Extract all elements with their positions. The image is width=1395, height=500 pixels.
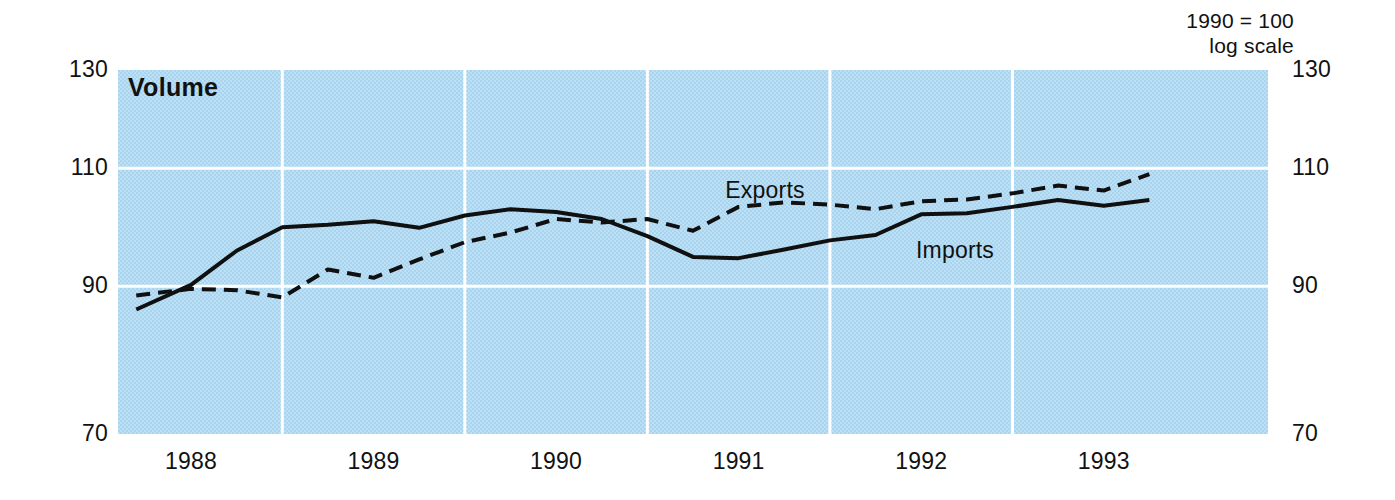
y-tick-label-left: 90 [38, 272, 108, 299]
x-tick-label: 1992 [861, 448, 981, 475]
y-tick-label-right: 130 [1292, 56, 1362, 83]
y-tick-label-left: 70 [38, 420, 108, 447]
note-index-base: 1990 = 100 [1186, 8, 1294, 33]
y-tick-label-right: 90 [1292, 272, 1362, 299]
y-tick-label-left: 130 [38, 56, 108, 83]
series-label-exports: Exports [705, 177, 825, 204]
x-tick-label: 1993 [1044, 448, 1164, 475]
chart-note: 1990 = 100 log scale [1186, 8, 1294, 58]
note-scale-type: log scale [1186, 33, 1294, 58]
trade-volume-chart: 1990 = 100 log scale 7090110130 70901101… [0, 0, 1395, 500]
plot-background [118, 70, 1268, 434]
x-tick-label: 1988 [131, 448, 251, 475]
plot-title: Volume [128, 73, 218, 102]
y-tick-label-right: 110 [1292, 154, 1362, 181]
series-label-imports: Imports [895, 237, 1015, 264]
x-tick-label: 1989 [314, 448, 434, 475]
y-tick-label-left: 110 [38, 154, 108, 181]
x-tick-label: 1990 [496, 448, 616, 475]
x-tick-label: 1991 [679, 448, 799, 475]
y-tick-label-right: 70 [1292, 420, 1362, 447]
